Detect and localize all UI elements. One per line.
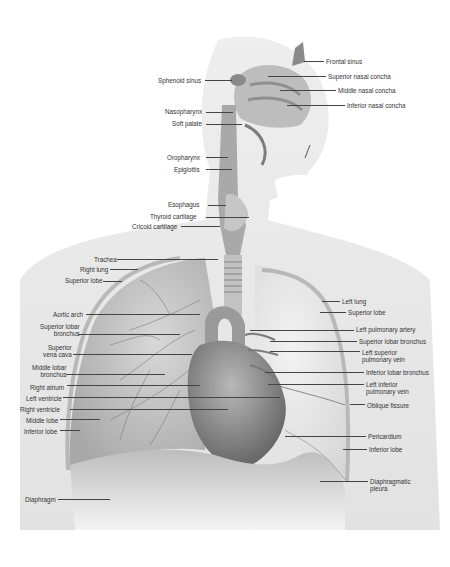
- label-text: Middle nasal concha: [338, 87, 395, 94]
- label-text: Diaphragmatic: [370, 478, 411, 485]
- label-text: Middle lobe: [26, 417, 58, 424]
- superior-lobar-bronchus-left-leader-line: [270, 341, 357, 342]
- pericardium-label: Pericardium: [368, 433, 402, 440]
- middle-lobar-bronchus-leader-line: [66, 374, 165, 375]
- label-text: Aortic arch: [53, 311, 83, 318]
- superior-nasal-concha-leader-line: [268, 76, 326, 77]
- aortic-arch-leader-line: [86, 314, 200, 315]
- diaphragm-shape: [70, 450, 345, 530]
- aortic-arch-label: Aortic arch: [53, 311, 83, 318]
- frontal-sinus-label: Frontal sinus: [326, 58, 362, 65]
- label-text: Frontal sinus: [326, 58, 362, 65]
- trachea-label: Trachea: [94, 256, 117, 263]
- middle-nasal-concha-leader-line: [280, 90, 336, 91]
- soft-palate-label: Soft palate: [172, 120, 202, 127]
- label-text: Inferior lobe: [369, 446, 402, 453]
- label-text: pleura: [370, 485, 411, 492]
- thyroid-cartilage-label: Thyroid cartilage: [150, 213, 197, 220]
- label-text: Pericardium: [368, 433, 402, 440]
- label-text: Inferior nasal concha: [347, 102, 405, 109]
- oblique-fissure-leader-line: [350, 404, 365, 405]
- superior-lobe-left-label: Superior lobe: [348, 309, 385, 316]
- left-ventricle-leader-line: [63, 397, 280, 398]
- label-text: Oblique fissure: [367, 402, 409, 409]
- label-text: Superior lobar bronchus: [359, 338, 426, 345]
- respiratory-system-diagram: Sphenoid sinusNasopharynxSoft palateOrop…: [0, 0, 450, 567]
- superior-lobe-left-leader-line: [320, 312, 346, 313]
- label-text: Esophagus: [168, 201, 200, 208]
- label-text: Soft palate: [172, 120, 202, 127]
- thyroid-cartilage-leader-line: [206, 217, 249, 218]
- label-text: Cricoid cartilage: [132, 223, 177, 230]
- inferior-lobe-left-label: Inferior lobe: [369, 446, 402, 453]
- label-text: pulmonary vein: [362, 356, 405, 363]
- label-text: Right lung: [80, 266, 108, 273]
- label-text: Superior: [43, 344, 72, 351]
- left-superior-pulmonary-vein-label: Left superiorpulmonary vein: [362, 349, 405, 363]
- label-text: Diaphragm: [25, 496, 56, 503]
- diaphragm-label: Diaphragm: [25, 496, 56, 503]
- cricoid-cartilage-label: Cricoid cartilage: [132, 223, 177, 230]
- middle-lobe-leader-line: [60, 419, 100, 420]
- middle-lobar-bronchus-label: Middle lobarbronchus: [32, 364, 66, 378]
- left-pulmonary-artery-leader-line: [250, 330, 354, 331]
- oropharynx-leader-line: [206, 157, 228, 158]
- esophagus-label: Esophagus: [168, 201, 200, 208]
- sphenoid-sinus-shape: [230, 74, 246, 86]
- superior-lobe-right-label: Superior lobe: [65, 277, 102, 284]
- cricoid-cartilage-leader-line: [181, 226, 220, 227]
- label-text: Nasopharynx: [165, 108, 202, 115]
- sphenoid-sinus-leader-line: [205, 80, 232, 81]
- inferior-lobar-bronchus-label: Inferior lobar bronchus: [366, 369, 429, 376]
- label-text: Inferior lobe: [24, 428, 57, 435]
- diaphragmatic-pleura-label: Diaphragmaticpleura: [370, 478, 411, 492]
- label-text: Superior lobe: [65, 277, 102, 284]
- oblique-fissure-label: Oblique fissure: [367, 402, 409, 409]
- label-text: Oropharynx: [167, 154, 200, 161]
- soft-palate-leader-line: [206, 124, 242, 125]
- label-text: Left superior: [362, 349, 405, 356]
- label-text: Left ventricle: [26, 395, 62, 402]
- label-text: vena cava: [43, 351, 72, 358]
- label-text: Inferior lobar bronchus: [366, 369, 429, 376]
- middle-nasal-concha-label: Middle nasal concha: [338, 87, 395, 94]
- label-text: bronchus: [40, 330, 80, 337]
- label-text: Superior lobar: [40, 323, 80, 330]
- superior-nasal-concha-label: Superior nasal concha: [328, 73, 391, 80]
- label-text: Thyroid cartilage: [150, 213, 197, 220]
- right-lung-leader-line: [110, 269, 138, 270]
- left-inferior-pulmonary-vein-label: Left inferiorpulmonary vein: [366, 381, 409, 395]
- label-text: Epiglottis: [174, 166, 200, 173]
- right-atrium-label: Right atrium: [30, 384, 64, 391]
- right-ventricle-label: Right ventricle: [20, 406, 60, 413]
- inferior-nasal-concha-label: Inferior nasal concha: [347, 102, 405, 109]
- inferior-nasal-concha-leader-line: [287, 105, 345, 106]
- sphenoid-sinus-label: Sphenoid sinus: [158, 77, 201, 84]
- right-ventricle-leader-line: [70, 409, 228, 410]
- label-text: Sphenoid sinus: [158, 77, 201, 84]
- label-text: Left pulmonary artery: [356, 326, 416, 333]
- label-text: Left inferior: [366, 381, 409, 388]
- inferior-lobe-right-leader-line: [60, 430, 80, 431]
- middle-lobe-label: Middle lobe: [26, 417, 58, 424]
- superior-lobar-bronchus-left-label: Superior lobar bronchus: [359, 338, 426, 345]
- superior-vena-cava-leader-line: [73, 354, 192, 355]
- superior-lobar-bronchus-right-label: Superior lobarbronchus: [40, 323, 80, 337]
- right-atrium-leader-line: [67, 385, 200, 386]
- left-pulmonary-artery-label: Left pulmonary artery: [356, 326, 416, 333]
- label-text: pulmonary vein: [366, 388, 409, 395]
- label-text: Right ventricle: [20, 406, 60, 413]
- superior-vena-cava-label: Superiorvena cava: [43, 344, 72, 358]
- label-text: Trachea: [94, 256, 117, 263]
- label-text: Left lung: [342, 298, 366, 305]
- left-ventricle-label: Left ventricle: [26, 395, 62, 402]
- label-text: Middle lobar: [32, 364, 66, 371]
- inferior-lobar-bronchus-leader-line: [265, 372, 364, 373]
- epiglottis-label: Epiglottis: [174, 166, 200, 173]
- label-text: Superior nasal concha: [328, 73, 391, 80]
- trachea-leader-line: [117, 259, 218, 260]
- esophagus-leader-line: [208, 205, 226, 206]
- trachea-shape: [224, 255, 242, 315]
- inferior-lobe-right-label: Inferior lobe: [24, 428, 57, 435]
- nasopharynx-leader-line: [206, 112, 233, 113]
